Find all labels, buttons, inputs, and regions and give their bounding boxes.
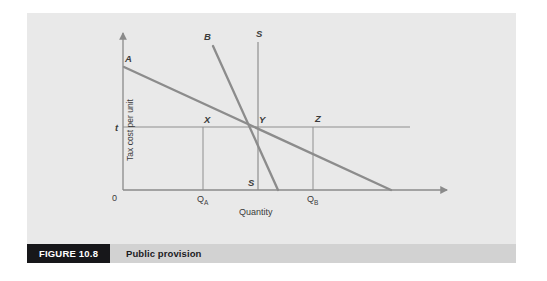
label-qb-sub: B [314,199,318,206]
label-qb: QB [307,194,318,206]
public-provision-chart [27,13,516,218]
label-supply-top: S [256,29,262,39]
label-qb-base: Q [307,194,314,204]
figure-panel: A B S S X Y Z t 0 QA QB Tax cost per uni… [27,13,516,262]
label-point-y: Y [259,115,265,125]
figure-number-badge: FIGURE 10.8 [27,244,110,263]
figure-caption-bar: FIGURE 10.8 Public provision [27,244,516,263]
y-axis-title: Tax cost per unit [125,99,135,161]
label-point-z: Z [315,114,321,124]
figure-caption-title: Public provision [126,244,202,263]
label-point-b: B [204,32,211,42]
figure-screenshot: A B S S X Y Z t 0 QA QB Tax cost per uni… [0,0,547,281]
label-supply-bottom: S [248,178,254,188]
label-qa: QA [197,194,208,206]
demand-curve-b [213,46,278,190]
x-axis-title: Quantity [239,208,273,217]
label-origin: 0 [112,194,117,203]
label-qa-sub: A [204,199,208,206]
label-qa-base: Q [197,194,204,204]
label-point-a: A [125,54,132,64]
label-point-x: X [204,115,210,125]
label-tax-level-t: t [115,123,118,133]
